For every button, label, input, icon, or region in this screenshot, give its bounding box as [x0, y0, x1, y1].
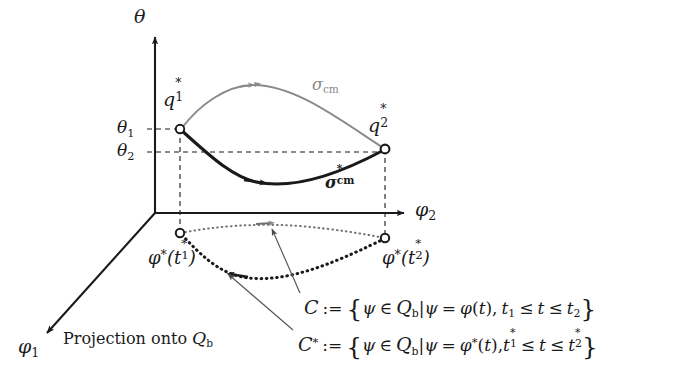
diagram-canvas: θ θ1 θ2 φ2 φ1 q*1 q*2 σcm σ*cm φ*(t*1) φ… [0, 0, 676, 387]
point-label-q2: q*2 [368, 110, 388, 135]
axis-label-theta: θ [134, 7, 145, 26]
point-marker-q2 [381, 145, 390, 154]
curve-label-sigma-cm: σcm [312, 77, 339, 95]
axis-tick-label-theta1: θ1 [117, 119, 134, 139]
curve-label-sigma-cm-star: σ*cm [325, 169, 354, 191]
point-label-proj-start: φ*(t*1) [148, 244, 196, 267]
projection-curve-c-star [182, 235, 384, 279]
point-label-q1: q*1 [163, 84, 183, 109]
projection-note: Projection onto Qb [63, 330, 213, 349]
formula-set-c-star: C*:={ψ∈Qb|ψ=φ*(t),t*1≤t≤t*2} [298, 333, 598, 359]
curve-sigma-cm [181, 84, 385, 149]
leader-line-c-star [228, 274, 293, 330]
point-marker-proj-end [381, 234, 389, 242]
axis-label-phi2: φ2 [415, 200, 436, 223]
axis-phi1 [47, 213, 155, 333]
point-label-proj-end: φ*(t*2) [382, 244, 430, 267]
projection-curve-c [181, 223, 384, 238]
axis-tick-label-theta2: θ2 [117, 142, 134, 162]
axis-label-phi1: φ1 [18, 337, 39, 360]
leader-line-c [272, 229, 300, 293]
point-marker-q1 [176, 125, 184, 133]
formula-set-c: C:={ψ∈Qb|ψ=φ(t),t1≤t≤t2} [304, 297, 596, 322]
